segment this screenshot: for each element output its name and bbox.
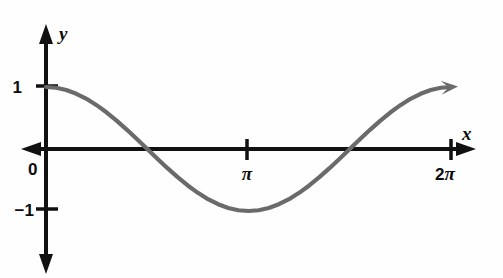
x-tick-label-two-pi: 2π [435,163,455,184]
graph-canvas: y x 1 −1 0 π 2π [0,0,503,278]
x-tick-label-pi: π [242,163,253,184]
y-tick-label-1: 1 [13,78,22,97]
two-pi-number: 2 [435,165,444,184]
origin-label: 0 [28,160,37,179]
cosine-graph-figure: y x 1 −1 0 π 2π [0,0,503,278]
x-axis-right-arrowhead [456,142,476,156]
y-tick-label-minus-1: −1 [15,201,34,220]
two-pi-symbol: π [444,163,455,184]
y-axis-up-arrowhead [39,24,53,44]
y-axis-down-arrowhead [39,254,53,274]
x-axis-label: x [461,123,472,144]
x-axis-left-arrowhead [21,142,41,156]
y-axis-label: y [57,23,68,44]
